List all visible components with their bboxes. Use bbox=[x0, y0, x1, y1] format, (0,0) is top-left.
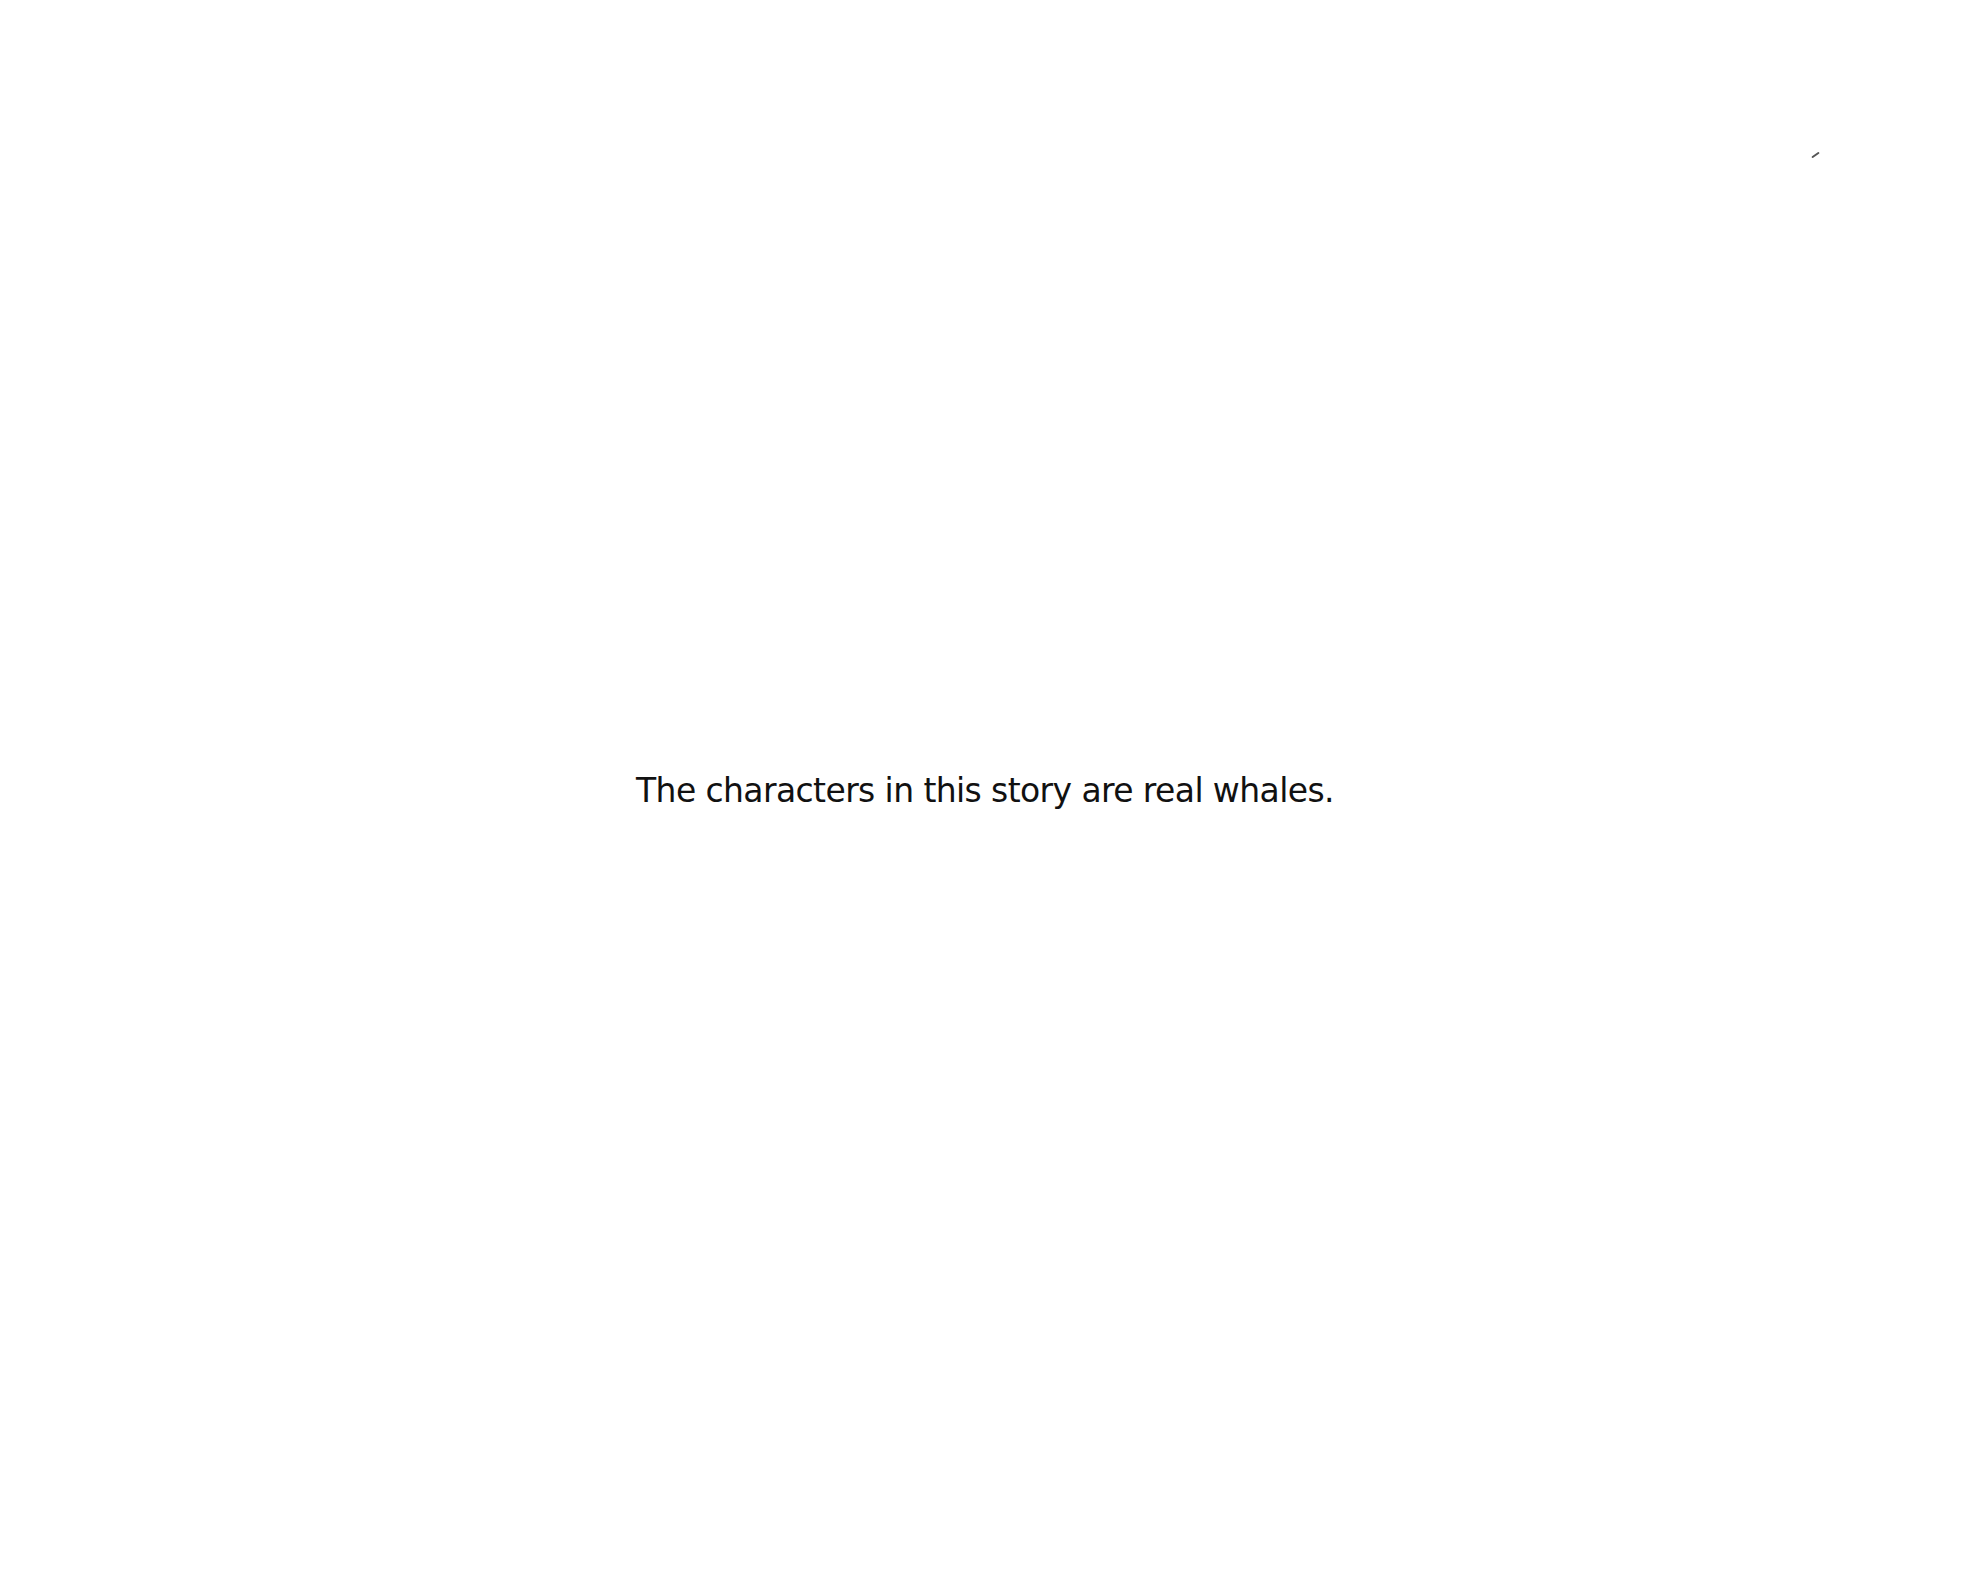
page-statement: The characters in this story are real wh… bbox=[0, 769, 1964, 813]
book-page: The characters in this story are real wh… bbox=[0, 0, 1964, 1588]
scan-mark bbox=[1811, 152, 1820, 159]
